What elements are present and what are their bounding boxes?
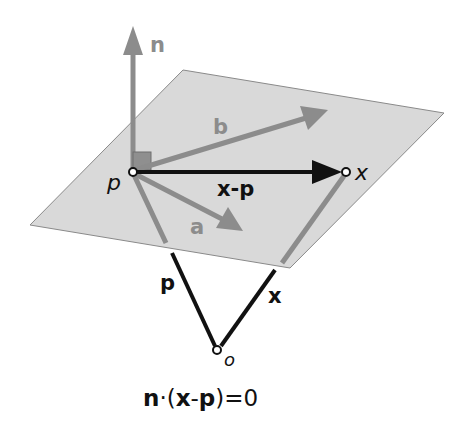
point-x <box>342 168 350 176</box>
label-x-minus-p: x-p <box>217 177 254 201</box>
equation-tail: )=0 <box>215 385 258 411</box>
label-point-x: x <box>354 160 369 185</box>
label-b: b <box>213 115 228 139</box>
point-p <box>129 168 137 176</box>
vector-x <box>221 270 275 346</box>
plane <box>30 70 444 268</box>
equation-p: p <box>199 385 215 411</box>
label-origin: o <box>224 349 235 370</box>
label-a: a <box>190 215 204 239</box>
equation-n: n <box>143 385 159 411</box>
point-origin <box>213 346 221 354</box>
plane-diagram: n b a p x x-p p x o n·(x-p)=0 <box>0 0 460 437</box>
equation-dot: ·( <box>159 385 175 411</box>
normal-arrowhead-icon <box>123 26 143 55</box>
label-point-p: p <box>106 170 121 195</box>
equation: n·(x-p)=0 <box>143 385 258 411</box>
equation-x: x <box>176 385 191 411</box>
vector-p <box>172 253 215 346</box>
equation-minus: - <box>191 385 199 411</box>
label-vector-p: p <box>160 271 175 295</box>
label-vector-x: x <box>268 284 282 308</box>
label-n: n <box>150 33 165 57</box>
